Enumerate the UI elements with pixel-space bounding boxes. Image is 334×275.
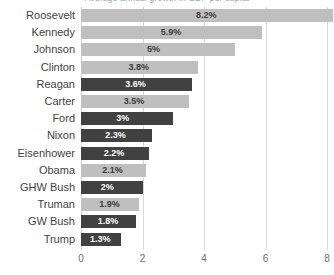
bar: 5% [81, 43, 235, 56]
bar-rows: Roosevelt8.2%Kennedy5.9%Johnson5%Clinton… [0, 7, 334, 250]
bar: 3.8% [81, 61, 198, 74]
category-label: GHW Bush [0, 179, 75, 196]
category-label: Clinton [0, 59, 75, 76]
bar: 3.5% [81, 95, 189, 108]
bar-row: Carter3.5% [0, 93, 334, 110]
bar-value-label: 3.5% [124, 95, 145, 108]
bar-value-label: 1.3% [90, 233, 111, 246]
bar-row: GW Bush1.8% [0, 213, 334, 230]
bar-row: Roosevelt8.2% [0, 7, 334, 24]
category-label: Carter [0, 93, 75, 110]
bar-row: Ford3% [0, 110, 334, 127]
bar-row: Johnson5% [0, 41, 334, 58]
bar-row: Eisenhower2.2% [0, 145, 334, 162]
bar-value-label: 2% [101, 181, 114, 194]
bar: 3% [81, 112, 173, 125]
bar: 2.2% [81, 147, 149, 160]
bar: 2.3% [81, 129, 152, 142]
bar-value-label: 1.8% [98, 215, 119, 228]
bar-value-label: 3.6% [125, 78, 146, 91]
bar-row: Clinton3.8% [0, 59, 334, 76]
bar-row: Trump1.3% [0, 231, 334, 248]
bar-value-label: 2.3% [105, 129, 126, 142]
category-label: Truman [0, 196, 75, 213]
bar-value-label: 1.9% [99, 198, 120, 211]
bar-value-label: 5.9% [161, 26, 182, 39]
category-label: Roosevelt [0, 7, 75, 24]
bar: 2% [81, 181, 143, 194]
bar: 1.8% [81, 215, 136, 228]
bar-chart: Average annual growth in GDP per capita … [0, 0, 334, 275]
bar-row: Reagan3.6% [0, 76, 334, 93]
bar-value-label: 2.2% [104, 147, 125, 160]
bar: 2.1% [81, 164, 146, 177]
category-label: Obama [0, 162, 75, 179]
bar: 3.6% [81, 78, 192, 91]
bar-row: Truman1.9% [0, 196, 334, 213]
category-label: Nixon [0, 127, 75, 144]
chart-title-band: Average annual growth in GDP per capita [0, 0, 334, 5]
category-label: GW Bush [0, 213, 75, 230]
bar-value-label: 3.8% [128, 61, 149, 74]
bar: 1.3% [81, 233, 121, 246]
x-tick-label: 6 [263, 253, 269, 264]
bar-value-label: 5% [147, 43, 160, 56]
category-label: Eisenhower [0, 145, 75, 162]
bar-row: Obama2.1% [0, 162, 334, 179]
bar-value-label: 8.2% [196, 9, 217, 22]
bar-value-label: 2.1% [102, 164, 123, 177]
x-tick-label: 4 [201, 253, 207, 264]
bar-value-label: 3% [116, 112, 129, 125]
chart-title: Average annual growth in GDP per capita [0, 0, 334, 3]
bar: 1.9% [81, 198, 139, 211]
bar-row: Kennedy5.9% [0, 24, 334, 41]
category-label: Kennedy [0, 24, 75, 41]
x-tick-label: 0 [78, 253, 84, 264]
category-label: Trump [0, 231, 75, 248]
x-tick-label: 2 [140, 253, 146, 264]
bar-row: Nixon2.3% [0, 127, 334, 144]
bar: 5.9% [81, 26, 262, 39]
category-label: Ford [0, 110, 75, 127]
bar-row: GHW Bush2% [0, 179, 334, 196]
category-label: Reagan [0, 76, 75, 93]
plot-area: Roosevelt8.2%Kennedy5.9%Johnson5%Clinton… [0, 7, 334, 250]
bar: 8.2% [81, 9, 333, 22]
x-tick-label: 8 [324, 253, 330, 264]
x-axis: 02468 [0, 250, 334, 275]
category-label: Johnson [0, 41, 75, 58]
